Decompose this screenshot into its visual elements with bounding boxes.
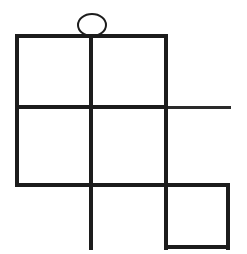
- canvas-background: [0, 0, 247, 254]
- line-figure-drawing: [0, 0, 247, 254]
